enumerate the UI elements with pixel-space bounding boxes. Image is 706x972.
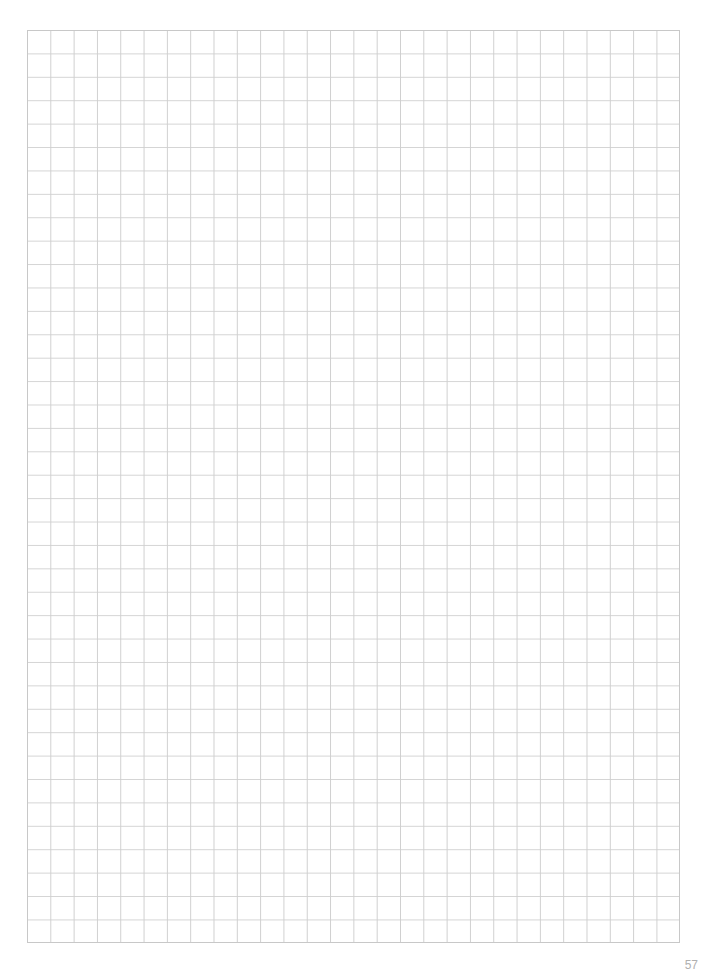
page-number: 57: [685, 958, 698, 972]
graph-paper-grid: [27, 30, 680, 943]
